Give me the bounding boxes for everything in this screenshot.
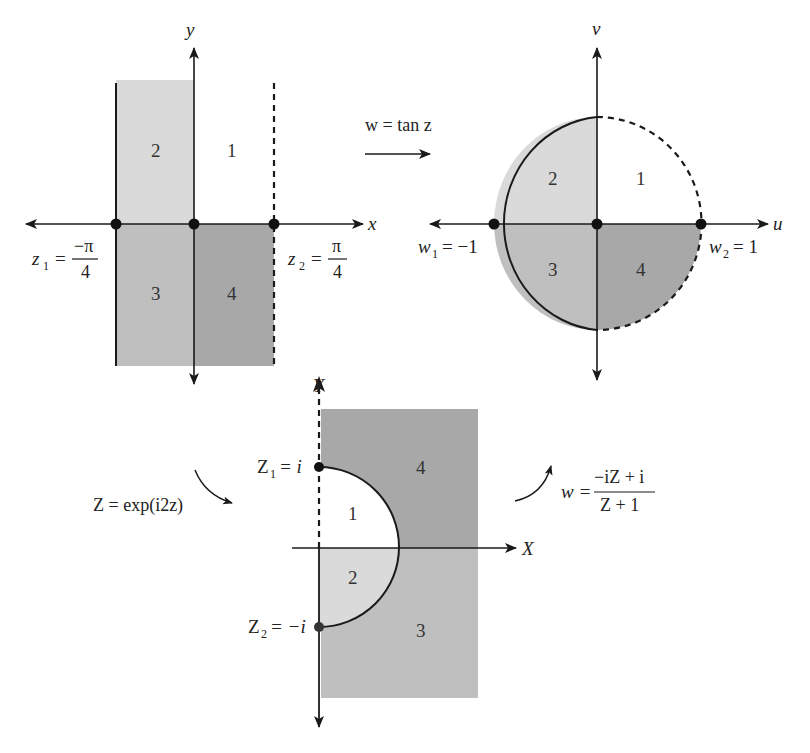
Z-region-label-4: 4	[416, 457, 426, 478]
svg-text:=: =	[311, 248, 322, 269]
tan-mapping: w = tan z	[365, 115, 432, 154]
svg-text:1: 1	[432, 247, 438, 261]
origin-point	[189, 219, 200, 230]
exp-mapping: Z = exp(i2z)	[93, 470, 232, 516]
mobius-mapping: w = −iZ + i Z + 1	[515, 466, 655, 515]
svg-text:w: w	[418, 236, 431, 257]
svg-text:4: 4	[333, 262, 342, 282]
u-axis-label: u	[773, 213, 783, 234]
w-region-2	[494, 117, 597, 224]
Z1-point	[314, 462, 324, 472]
svg-text:= −1: = −1	[442, 236, 478, 257]
svg-text:2: 2	[261, 627, 267, 641]
X-axis-label: X	[521, 538, 535, 559]
svg-text:1: 1	[43, 259, 49, 273]
svg-text:Z: Z	[248, 616, 260, 637]
z2-label: z 2 = π 4	[287, 236, 347, 282]
svg-text:= −i: = −i	[270, 616, 306, 637]
svg-text:w: w	[709, 236, 722, 257]
exp-mapping-label: Z = exp(i2z)	[93, 495, 183, 516]
Y-axis-label-visible: Y	[313, 375, 326, 396]
svg-text:2: 2	[723, 247, 729, 261]
svg-text:z: z	[287, 248, 296, 269]
w2-label: w 2 = 1	[709, 236, 758, 261]
conformal-mapping-diagram: x y 2 1 3 4 z 1 = −π 4 z 2 = π 4 w = tan…	[0, 0, 810, 753]
svg-text:4: 4	[81, 262, 90, 282]
z-region-label-3: 3	[151, 283, 161, 304]
Z-region-label-1: 1	[348, 503, 358, 524]
svg-text:= i: = i	[279, 456, 302, 477]
Z-region-label-3: 3	[416, 620, 426, 641]
tan-mapping-label: w = tan z	[365, 115, 432, 135]
mobius-denominator: Z + 1	[600, 495, 639, 515]
z1-point	[111, 219, 122, 230]
w1-label: w 1 = −1	[418, 236, 478, 261]
svg-text:−π: −π	[74, 236, 93, 256]
y-axis-label: y	[184, 19, 195, 40]
svg-text:=: =	[55, 248, 66, 269]
Z-plane-panel: X Y 4 1 2 3 Z 1 = i Z 2 = −i	[248, 376, 535, 727]
svg-text:π: π	[332, 236, 341, 256]
z2-point	[269, 219, 280, 230]
x-axis-label: x	[367, 213, 377, 234]
z-region-label-1: 1	[227, 140, 237, 161]
Z2-label: Z 2 = −i	[248, 616, 306, 641]
Z1-label: Z 1 = i	[257, 456, 302, 481]
w2-point	[696, 219, 707, 230]
svg-text:= 1: = 1	[733, 236, 758, 257]
mobius-lhs: w =	[561, 481, 591, 502]
mobius-numerator: −iZ + i	[594, 467, 644, 487]
svg-text:z: z	[31, 248, 40, 269]
w-plane-panel: u v 2 1 3 4 w 1 = −1 w 2 = 1	[418, 18, 783, 380]
Z2-point	[314, 622, 324, 632]
svg-text:Z: Z	[257, 456, 269, 477]
v-axis-label: v	[592, 18, 601, 39]
w-region-label-2: 2	[548, 168, 558, 189]
svg-text:1: 1	[270, 467, 276, 481]
svg-text:2: 2	[299, 259, 305, 273]
z1-label: z 1 = −π 4	[31, 236, 98, 282]
mobius-curved-arrow	[515, 466, 551, 501]
Z-region-label-2: 2	[348, 567, 358, 588]
w-region-3	[494, 224, 597, 330]
exp-curved-arrow	[195, 470, 232, 503]
w-region-label-1: 1	[636, 168, 646, 189]
w-region-label-3: 3	[548, 259, 558, 280]
z-region-label-4: 4	[227, 283, 237, 304]
w-origin-point	[592, 219, 603, 230]
w1-point	[489, 219, 500, 230]
z-plane-panel: x y 2 1 3 4 z 1 = −π 4 z 2 = π 4	[26, 19, 377, 384]
w-region-4	[597, 224, 701, 330]
z-region-label-2: 2	[151, 140, 161, 161]
w-region-label-4: 4	[636, 259, 646, 280]
